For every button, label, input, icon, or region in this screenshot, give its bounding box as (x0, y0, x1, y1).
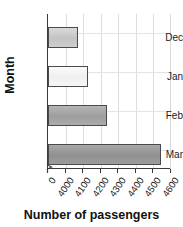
bar-feb[interactable] (48, 105, 107, 126)
x-tick (47, 169, 48, 173)
y-tick-label-mar: Mar (140, 149, 183, 160)
y-tick-label-dec: Dec (140, 32, 183, 43)
x-tick (82, 169, 83, 173)
chart-title (0, 0, 183, 2)
x-axis-title: Number of passengers (0, 208, 183, 222)
y-axis-title: Month (3, 25, 17, 125)
x-tick (152, 169, 153, 173)
x-tick (117, 169, 118, 173)
bar-chart: Dec Jan Feb Mar Month 0 4000 4100 4200 4… (0, 0, 183, 227)
x-tick (65, 169, 66, 173)
y-tick-label-jan: Jan (140, 71, 183, 82)
x-tick (100, 169, 101, 173)
bar-dec[interactable] (48, 27, 78, 48)
x-tick (135, 169, 136, 173)
bar-jan[interactable] (48, 66, 88, 87)
x-tick (170, 169, 171, 173)
y-tick-label-feb: Feb (140, 110, 183, 121)
